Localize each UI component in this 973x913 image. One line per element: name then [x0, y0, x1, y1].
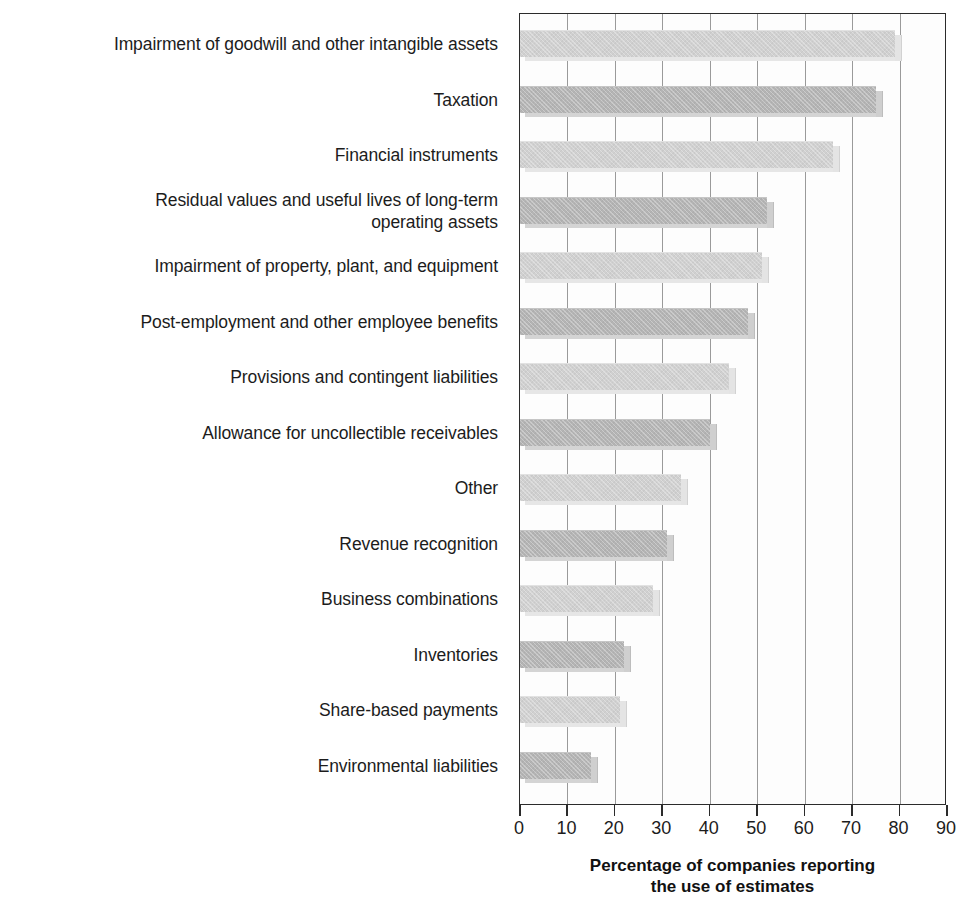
x-tick-label-80: 80	[879, 818, 919, 839]
bar-front-face	[520, 86, 876, 113]
x-tick-label-20: 20	[594, 818, 634, 839]
bar-front-face	[520, 419, 710, 446]
bar	[520, 752, 591, 778]
x-tick-label-30: 30	[641, 818, 681, 839]
bar-side-face	[624, 646, 631, 672]
x-tick-80	[899, 805, 901, 816]
bar-front-face	[520, 641, 624, 668]
x-tick-60	[804, 805, 806, 816]
bar	[520, 197, 767, 223]
category-label: Impairment of goodwill and other intangi…	[0, 33, 498, 55]
category-label: Business combinations	[0, 588, 498, 610]
bar-front-face	[520, 363, 729, 390]
bar-front-face	[520, 696, 620, 723]
bar	[520, 530, 667, 556]
bar	[520, 363, 729, 389]
category-label: Post-employment and other employee benef…	[0, 311, 498, 333]
bar-side-face	[748, 313, 755, 339]
bar	[520, 696, 620, 722]
category-label: Other	[0, 477, 498, 499]
plot-area	[519, 13, 946, 805]
bar-side-face	[620, 701, 627, 727]
x-tick-30	[661, 805, 663, 816]
x-axis-title: Percentage of companies reporting the us…	[519, 855, 946, 897]
bar-side-face	[833, 146, 840, 172]
bar-series	[520, 14, 945, 804]
category-label: Revenue recognition	[0, 533, 498, 555]
category-label: Allowance for uncollectible receivables	[0, 422, 498, 444]
bar-side-face	[729, 368, 736, 394]
x-tick-label-40: 40	[689, 818, 729, 839]
bar-side-face	[710, 424, 717, 450]
category-label-column: Impairment of goodwill and other intangi…	[0, 15, 508, 805]
bar-chart: Impairment of goodwill and other intangi…	[0, 0, 973, 913]
bar-side-face	[762, 257, 769, 283]
bar	[520, 419, 710, 445]
bar-side-face	[667, 535, 674, 561]
bar	[520, 308, 748, 334]
bar-front-face	[520, 252, 762, 279]
category-label: Impairment of property, plant, and equip…	[0, 255, 498, 277]
x-tick-50	[756, 805, 758, 816]
bar-front-face	[520, 752, 591, 779]
category-label: Residual values and useful lives of long…	[0, 189, 498, 233]
x-tick-label-60: 60	[784, 818, 824, 839]
x-tick-90	[946, 805, 948, 816]
category-label: Provisions and contingent liabilities	[0, 366, 498, 388]
x-tick-label-90: 90	[926, 818, 966, 839]
bar-front-face	[520, 197, 767, 224]
bar-side-face	[876, 91, 883, 117]
bar-front-face	[520, 141, 833, 168]
bar	[520, 86, 876, 112]
bar	[520, 474, 681, 500]
category-label: Environmental liabilities	[0, 755, 498, 777]
bar-front-face	[520, 308, 748, 335]
x-axis: 0102030405060708090	[519, 805, 946, 806]
bar	[520, 30, 895, 56]
bar	[520, 641, 624, 667]
x-tick-10	[566, 805, 568, 816]
bar-side-face	[681, 479, 688, 505]
bar-front-face	[520, 585, 653, 612]
bar	[520, 252, 762, 278]
bar	[520, 141, 833, 167]
bar-front-face	[520, 474, 681, 501]
x-tick-20	[614, 805, 616, 816]
bar-side-face	[895, 35, 902, 61]
bar	[520, 585, 653, 611]
bar-front-face	[520, 530, 667, 557]
x-tick-70	[851, 805, 853, 816]
bar-side-face	[653, 590, 660, 616]
x-tick-label-50: 50	[736, 818, 776, 839]
x-tick-label-0: 0	[499, 818, 539, 839]
bar-side-face	[591, 757, 598, 783]
x-tick-label-70: 70	[831, 818, 871, 839]
category-label: Inventories	[0, 644, 498, 666]
category-label: Financial instruments	[0, 144, 498, 166]
x-tick-0	[519, 805, 521, 816]
x-tick-label-10: 10	[546, 818, 586, 839]
category-label: Share-based payments	[0, 699, 498, 721]
category-label: Taxation	[0, 89, 498, 111]
x-tick-40	[709, 805, 711, 816]
bar-side-face	[767, 202, 774, 228]
bar-front-face	[520, 30, 895, 57]
